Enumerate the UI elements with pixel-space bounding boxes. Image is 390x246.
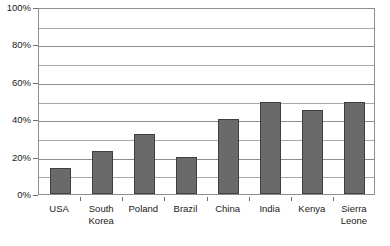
bar (260, 102, 281, 194)
y-axis-tick-label: 0% (17, 190, 31, 200)
bar-chart: 0%20%40%60%80%100% USASouth KoreaPolandB… (0, 0, 390, 246)
x-axis-tick-label: South Korea (89, 203, 114, 226)
bar (92, 151, 113, 194)
x-axis-tick-mark (207, 197, 208, 201)
x-axis-tick-label: India (259, 203, 280, 215)
y-axis-tick-label: 80% (12, 41, 31, 51)
plot-area (38, 8, 375, 195)
x-axis-tick-mark (333, 197, 334, 201)
bar (50, 168, 71, 194)
x-axis-tick-label: USA (49, 203, 69, 215)
bar (218, 119, 239, 194)
x-axis-tick-label: Sierra Leone (341, 203, 367, 226)
y-axis-tick-label: 20% (12, 153, 31, 163)
y-axis-tick-label: 40% (12, 115, 31, 125)
x-axis-tick-label: Poland (129, 203, 159, 215)
x-axis-tick-mark (164, 197, 165, 201)
y-axis-tick-label: 100% (7, 3, 31, 13)
bar (176, 157, 197, 194)
bars-layer (39, 9, 374, 194)
x-axis-tick-label: Kenya (298, 203, 325, 215)
y-axis-tick-mark (33, 195, 38, 196)
x-axis-tick-label: Brazil (174, 203, 198, 215)
x-axis-tick-mark (122, 197, 123, 201)
bar (134, 134, 155, 194)
y-axis-tick-label: 60% (12, 78, 31, 88)
x-axis-tick-label: China (215, 203, 240, 215)
bar (344, 102, 365, 194)
x-axis-tick-mark (80, 197, 81, 201)
bar (302, 110, 323, 194)
x-axis: USASouth KoreaPolandBrazilChinaIndiaKeny… (38, 197, 375, 246)
x-axis-tick-mark (249, 197, 250, 201)
x-axis-tick-mark (291, 197, 292, 201)
y-axis: 0%20%40%60%80%100% (0, 0, 38, 246)
